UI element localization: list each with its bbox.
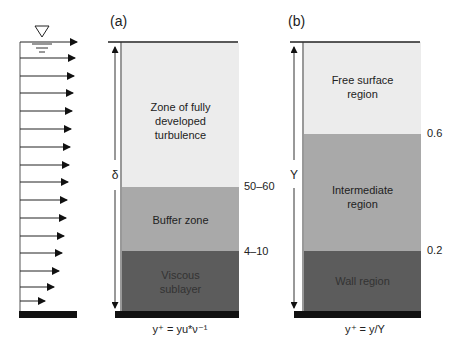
depth-symbol-delta: δ [110, 168, 120, 182]
zone-turbulence-label: Zone of fully developed turbulence [122, 100, 239, 142]
depth-symbol-Y: Y [289, 168, 299, 182]
channel-bed [19, 311, 77, 318]
velocity-profile [19, 26, 77, 318]
formula-a: y⁺ = yu*ν⁻¹ [130, 322, 230, 336]
boundary-b-upper: 0.6 [427, 127, 442, 139]
panel-b-label: (b) [288, 13, 305, 29]
formula-b: y⁺ = y/Y [315, 322, 415, 336]
diagram-canvas [0, 0, 460, 350]
zone-buffer-label: Buffer zone [122, 213, 239, 227]
velocity-arrows [20, 42, 77, 301]
zone-intermediate-label: Intermediate region [304, 183, 421, 211]
zone-wall-label: Wall region [304, 274, 421, 288]
zone-free-surface-label: Free surface region [304, 73, 421, 101]
panel-a-label: (a) [110, 13, 127, 29]
bed-b [294, 311, 421, 318]
boundary-a-lower: 4–10 [244, 245, 268, 257]
boundary-a-upper: 50–60 [244, 180, 275, 192]
boundary-b-lower: 0.2 [427, 244, 442, 256]
zone-viscous-label: Viscous sublayer [122, 268, 239, 296]
water-surface-triangle-icon [35, 26, 49, 37]
bed-a [115, 311, 239, 318]
